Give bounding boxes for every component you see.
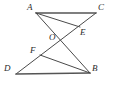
vertex-label-b: B — [92, 64, 98, 73]
figure-canvas — [0, 0, 117, 86]
segment-d-c — [16, 13, 96, 74]
vertex-label-d: D — [4, 64, 11, 73]
vertex-label-e: E — [80, 28, 86, 37]
vertex-label-a: A — [27, 3, 33, 12]
geometry-figure: A C E O F D B — [0, 0, 117, 86]
segment-d-b — [16, 73, 90, 74]
vertex-label-c: C — [98, 3, 104, 12]
segment-group — [16, 13, 96, 74]
vertex-label-f: F — [30, 46, 36, 55]
vertex-label-o: O — [49, 33, 56, 42]
